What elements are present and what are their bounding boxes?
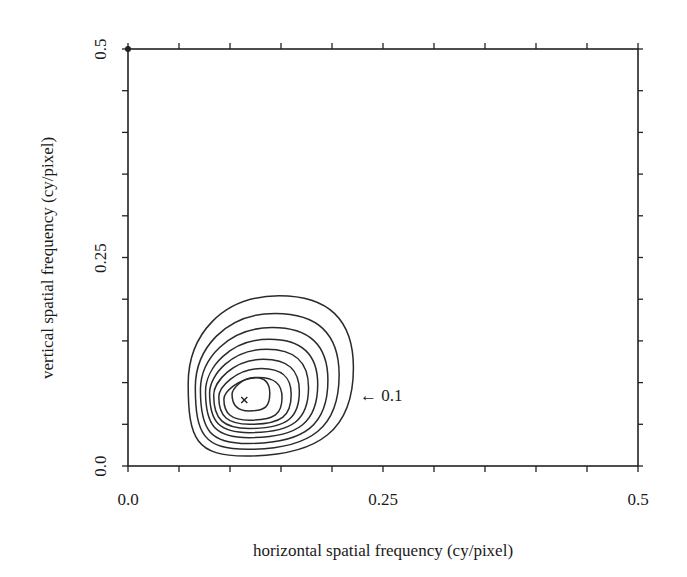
x-tick-label-0: 0.0 [117, 490, 138, 509]
contour-line-7 [219, 368, 291, 424]
y-axis-label: vertical spatial frequency (cy/pixel) [38, 137, 57, 379]
contour-line-1 [188, 296, 353, 456]
y-tick-label-1: 0.25 [91, 243, 110, 273]
y-tick-label-2: 0.5 [91, 38, 110, 59]
y-tick-label-0: 0.0 [91, 455, 110, 476]
x-tick-label-2: 0.5 [627, 490, 648, 509]
x-axis-label: horizontal spatial frequency (cy/pixel) [253, 541, 513, 560]
axis-ticks [122, 43, 643, 472]
x-tick-label-1: 0.25 [368, 490, 398, 509]
peak-marker-x-icon [241, 397, 247, 403]
contour-lines [188, 296, 353, 456]
contour-level-annotation: ← 0.1 [360, 386, 403, 405]
contour-chart: 0.0 0.25 0.5 0.0 0.25 0.5 horizontal spa… [0, 0, 687, 577]
